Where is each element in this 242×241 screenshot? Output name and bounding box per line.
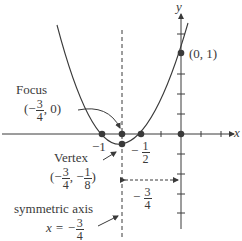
vertex-title: Vertex	[54, 151, 88, 164]
distance-sign: −	[133, 189, 140, 204]
focus-leader	[78, 109, 120, 128]
point-y-intercept	[178, 50, 185, 57]
vertex-y-den: 8	[84, 179, 92, 191]
point-root-left	[99, 131, 106, 138]
axis-leader	[98, 216, 118, 226]
parabola-curve	[57, 23, 188, 144]
symmetry-axis-title: symmetric axis	[14, 202, 93, 215]
vertex-coords: (−34, −18)	[50, 166, 96, 191]
y-axis-label: y	[176, 0, 182, 13]
focus-title: Focus	[16, 83, 47, 96]
vertex-close: )	[92, 169, 96, 184]
vertex-mid: , −	[70, 169, 84, 184]
root-right-den: 2	[142, 153, 150, 165]
root-left-label: −1	[92, 140, 106, 153]
root-right-sign: −	[131, 143, 138, 158]
x-axis-label: x	[234, 126, 240, 139]
focus-rest: , 0)	[44, 101, 61, 116]
distance-den: 4	[144, 199, 152, 211]
focus-coords: (−34, 0)	[24, 98, 61, 123]
y-intercept-label: (0, 1)	[189, 47, 217, 60]
symmetry-eq-den: 4	[76, 230, 84, 241]
vertex-open: (−	[50, 169, 62, 184]
symmetry-axis-equation: x = −34	[46, 217, 84, 241]
focus-open: (−	[24, 101, 36, 116]
root-right-label: − 12	[131, 140, 150, 165]
point-origin	[178, 131, 185, 138]
x-axis	[2, 131, 234, 137]
point-vertex	[119, 141, 126, 148]
vertex-x-den: 4	[62, 179, 70, 191]
distance-label: − 34	[133, 186, 152, 211]
point-root-right	[138, 131, 145, 138]
point-focus	[119, 131, 126, 138]
focus-x-den: 4	[36, 111, 44, 123]
symmetry-eq-lhs: x = −	[46, 220, 76, 235]
